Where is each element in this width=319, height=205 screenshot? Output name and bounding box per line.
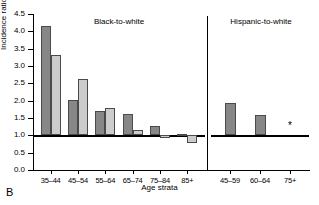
x-axis-line	[33, 170, 310, 171]
x-tick	[230, 170, 231, 174]
y-tick-label: 2.5	[14, 79, 25, 87]
x-tick-label: 75–84	[150, 176, 170, 185]
y-tick-label: 0.5	[14, 149, 25, 157]
bar	[225, 103, 236, 135]
plot-area: 0.00.51.01.52.02.53.03.54.04.5 Black-to-…	[33, 14, 310, 170]
x-tick-label: 45–59	[220, 176, 240, 185]
x-tick-label: 45–54	[68, 176, 88, 185]
y-axis-title: Incidence ratio	[0, 0, 8, 50]
bar	[95, 111, 105, 135]
bar	[51, 55, 61, 135]
bar	[177, 134, 187, 136]
y-tick: 0.5	[28, 153, 33, 154]
x-tick-label: 65–74	[123, 176, 143, 185]
bar	[105, 108, 115, 136]
reference-line	[211, 135, 309, 137]
x-tick	[78, 170, 79, 174]
bar	[41, 26, 51, 135]
panel-divider	[207, 16, 208, 170]
y-tick-label: 4.5	[14, 10, 25, 18]
y-tick-label: 1.0	[14, 131, 25, 139]
bar	[187, 135, 197, 143]
bar	[150, 126, 160, 136]
bar	[133, 130, 143, 135]
x-tick	[290, 170, 291, 174]
x-tick	[160, 170, 161, 174]
y-tick-label: 0.0	[14, 166, 25, 174]
panel-header-black-to-white: Black-to-white	[94, 17, 144, 26]
bar	[78, 79, 88, 135]
y-tick-label: 2.0	[14, 97, 25, 105]
y-tick: 4.0	[28, 31, 33, 32]
bar	[123, 114, 133, 135]
x-tick-label: 35–44	[41, 176, 61, 185]
y-tick: 3.5	[28, 49, 33, 50]
y-tick-label: 4.0	[14, 27, 25, 35]
y-tick: 3.0	[28, 66, 33, 67]
x-tick	[187, 170, 188, 174]
x-tick	[105, 170, 106, 174]
x-tick-label: 85+	[181, 176, 193, 185]
panel-header-hispanic-to-white: Hispanic-to-white	[230, 17, 291, 26]
y-tick-label: 3.0	[14, 62, 25, 70]
x-tick-label: 75+	[284, 176, 296, 185]
x-tick	[51, 170, 52, 174]
y-tick: 1.5	[28, 118, 33, 119]
y-tick: 0.0	[28, 170, 33, 171]
figure-panel-b: B Incidence ratio Age strata 0.00.51.01.…	[0, 0, 319, 205]
significance-asterisk: *	[288, 121, 292, 131]
bar	[68, 100, 78, 135]
x-tick-label: 60–64	[250, 176, 270, 185]
x-tick	[260, 170, 261, 174]
bar	[160, 135, 170, 137]
y-tick: 4.5	[28, 14, 33, 15]
y-tick-label: 1.5	[14, 114, 25, 122]
x-tick-label: 55–64	[95, 176, 115, 185]
y-tick: 2.0	[28, 101, 33, 102]
bar	[255, 115, 266, 136]
y-tick-label: 3.5	[14, 45, 25, 53]
x-tick	[133, 170, 134, 174]
y-tick: 2.5	[28, 83, 33, 84]
